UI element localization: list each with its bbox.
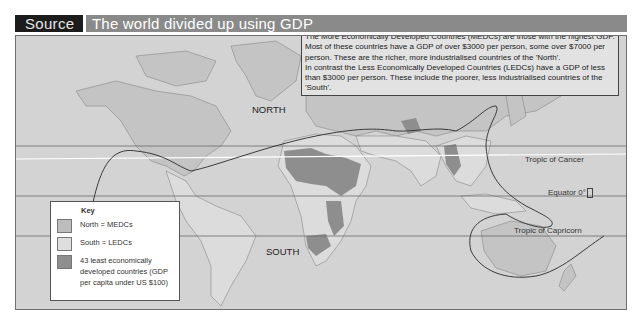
title-bar: Source 1 The world divided up using GDP <box>15 15 627 32</box>
key-title: Key <box>81 206 173 215</box>
info-box: The More Economically Developed Countrie… <box>301 35 619 96</box>
least-developed-swatch <box>57 255 72 269</box>
source-label: Source 1 <box>15 15 83 32</box>
south-label: SOUTH <box>266 246 299 257</box>
north-label: NORTH <box>252 104 286 115</box>
north-swatch <box>57 219 72 233</box>
map-key: Key North = MEDCs South = LEDCs 43 least… <box>50 201 180 301</box>
equator-box-icon <box>587 188 593 198</box>
key-label: 43 least economically developed countrie… <box>80 255 173 288</box>
world-map: The More Economically Developed Countrie… <box>15 35 627 310</box>
key-item-least-developed: 43 least economically developed countrie… <box>57 255 173 288</box>
south-swatch <box>57 237 72 251</box>
tropic-capricorn-label: Tropic of Capricorn <box>514 226 582 235</box>
key-label: South = LEDCs <box>80 237 132 248</box>
equator-text: Equator 0° <box>548 188 586 197</box>
key-item-south: South = LEDCs <box>57 237 173 251</box>
equator-label: Equator 0° <box>548 188 593 198</box>
info-paragraph-2: In contrast the Less Economically Develo… <box>305 63 615 94</box>
info-paragraph-1: The More Economically Developed Countrie… <box>305 35 615 63</box>
key-item-north: North = MEDCs <box>57 219 173 233</box>
key-label: North = MEDCs <box>80 219 133 230</box>
tropic-cancer-label: Tropic of Cancer <box>525 155 584 164</box>
page-title: The world divided up using GDP <box>86 15 627 32</box>
